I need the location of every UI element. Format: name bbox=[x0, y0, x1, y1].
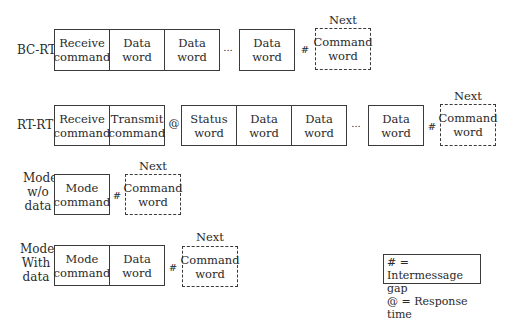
next-label: Next bbox=[125, 160, 181, 173]
next-label: Next bbox=[315, 14, 371, 27]
data-word-box: Data word bbox=[109, 245, 165, 286]
next-command-word-box: Command word bbox=[315, 28, 371, 70]
next-command-word-box: Command word bbox=[125, 174, 181, 215]
data-word-box: Data word bbox=[368, 105, 424, 146]
row-label-mode-without-data: Mode w/o data bbox=[23, 171, 53, 213]
data-word-box: Data word bbox=[236, 105, 292, 146]
intermessage-gap-symbol: # bbox=[167, 262, 179, 274]
mode-command-box: Mode command bbox=[54, 245, 110, 286]
ellipsis: ... bbox=[222, 42, 234, 54]
data-word-box: Data word bbox=[291, 105, 347, 146]
mode-command-box: Mode command bbox=[54, 174, 110, 215]
next-command-word-box: Command word bbox=[440, 104, 496, 146]
row-label-bc-rt: BC-RT bbox=[17, 43, 56, 57]
intermessage-gap-symbol: # bbox=[299, 44, 311, 56]
data-word-box: Data word bbox=[109, 29, 165, 71]
data-word-box: Data word bbox=[239, 29, 295, 71]
legend-intermessage-gap: # = Intermessage gap bbox=[387, 256, 477, 295]
row-label-rt-rt: RT-RT bbox=[17, 118, 53, 132]
row-label-mode-with-data: Mode With data bbox=[20, 242, 52, 284]
intermessage-gap-symbol: # bbox=[111, 190, 123, 202]
intermessage-gap-symbol: # bbox=[426, 121, 438, 133]
transmit-command-box: Transmit command bbox=[109, 105, 165, 146]
ellipsis: ... bbox=[350, 118, 362, 130]
next-label: Next bbox=[182, 231, 238, 244]
legend-response-time: @ = Response time bbox=[387, 295, 477, 321]
legend: # = Intermessage gap @ = Response time bbox=[383, 254, 481, 284]
response-time-symbol: @ bbox=[168, 118, 180, 130]
receive-command-box: Receive command bbox=[54, 29, 110, 71]
next-label: Next bbox=[440, 90, 496, 103]
next-command-word-box: Command word bbox=[182, 246, 238, 287]
data-word-box: Data word bbox=[164, 29, 220, 71]
status-word-box: Status word bbox=[181, 105, 237, 146]
receive-command-box: Receive command bbox=[54, 105, 110, 146]
